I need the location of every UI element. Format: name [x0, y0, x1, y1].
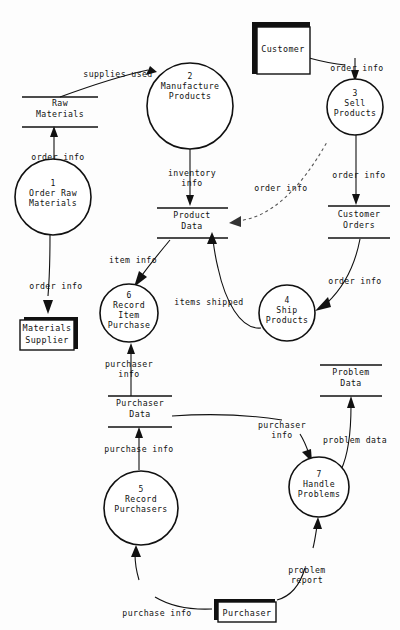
- process-label-line-1: Sell: [344, 98, 365, 108]
- flow-problem-report: [277, 517, 322, 600]
- process-2-manufacture-products[interactable]: 2 Manufacture Products: [147, 63, 233, 149]
- process-label-line-1: Record: [125, 494, 157, 504]
- data-store-purchaser-data[interactable]: Purchaser Data: [108, 396, 172, 427]
- process-label-line-2: Purchasers: [114, 504, 167, 514]
- process-1-order-raw-materials[interactable]: 1 Order Raw Materials: [15, 159, 91, 235]
- store-label-line-1: Customer: [338, 209, 381, 219]
- process-number: 6: [126, 291, 131, 300]
- data-store-customer-orders[interactable]: Customer Orders: [328, 206, 390, 238]
- flow-problem-data: [341, 396, 355, 470]
- process-number: 2: [187, 72, 192, 81]
- store-label-line-2: Data: [340, 378, 361, 388]
- flow-label-order-info-product-sell: order info: [254, 183, 307, 193]
- dfd-canvas: Raw Materials Product Data Customer Orde…: [0, 0, 400, 630]
- flow-purchase-info-purchaser-to-record: [131, 545, 212, 609]
- process-label-line-2: Products: [169, 91, 212, 101]
- store-label-line-1: Purchaser: [116, 398, 164, 408]
- external-entity-label-line-2: Supplier: [25, 335, 69, 345]
- store-label-line-1: Product: [173, 210, 210, 220]
- flow-label-purchaser-info-6-line-2: info: [118, 369, 139, 379]
- process-label-line-1: Order Raw: [29, 188, 77, 198]
- flow-label-order-info-raw: order info: [31, 152, 84, 162]
- flow-label-problem-report-line-1: problem: [288, 565, 325, 575]
- store-label-line-2: Data: [129, 409, 150, 419]
- external-entity-customer[interactable]: Customer: [252, 22, 310, 74]
- flow-label-problem-report-line-2: report: [291, 575, 323, 585]
- flow-label-purchaser-info-7-line-1: purchaser: [258, 420, 306, 430]
- flow-label-items-shipped: items shipped: [174, 297, 243, 307]
- external-entity-materials-supplier[interactable]: Materials Supplier: [20, 317, 78, 350]
- flow-label-order-info-sell-orders: order info: [332, 170, 385, 180]
- flow-label-purchase-info-purchaser: purchase info: [122, 608, 191, 618]
- flow-label-problem-data: problem data: [323, 435, 387, 445]
- process-5-record-purchasers[interactable]: 5 Record Purchasers: [104, 471, 178, 545]
- data-store-product-data[interactable]: Product Data: [157, 208, 228, 238]
- data-store-problem-data[interactable]: Problem Data: [320, 365, 382, 396]
- store-label-line-2: Data: [181, 221, 202, 231]
- store-label-line-1: Raw: [52, 98, 68, 108]
- flow-label-order-info-orders-ship: order info: [328, 276, 381, 286]
- process-label-line-2: Item: [118, 310, 139, 320]
- flow-order-info-orders-to-ship: [315, 239, 360, 311]
- process-label-line-1: Handle: [303, 479, 335, 489]
- flow-label-purchase-info-store: purchase info: [104, 444, 173, 454]
- flow-label-inventory-info-line-2: info: [181, 178, 202, 188]
- process-4-ship-products[interactable]: 4 Ship Products: [259, 285, 315, 341]
- flow-items-shipped: [207, 232, 261, 328]
- flow-label-purchaser-info-6-line-1: purchaser: [105, 359, 153, 369]
- process-label-line-2: Products: [334, 108, 377, 118]
- external-entity-label-line-1: Materials: [23, 323, 72, 333]
- process-label-line-1: Record: [113, 300, 145, 310]
- store-label-line-2: Materials: [36, 109, 84, 119]
- process-3-sell-products[interactable]: 3 Sell Products: [327, 79, 383, 135]
- dfd-svg: Raw Materials Product Data Customer Orde…: [0, 0, 400, 630]
- process-label-line-1: Ship: [276, 305, 297, 315]
- flow-label-supplies-used: supplies used: [83, 69, 152, 79]
- process-label-line-3: Purchase: [108, 320, 151, 330]
- process-number: 4: [284, 296, 289, 305]
- process-number: 1: [50, 179, 55, 188]
- process-7-handle-problems[interactable]: 7 Handle Problems: [289, 457, 349, 517]
- process-label-line-2: Materials: [29, 198, 77, 208]
- process-label-line-2: Problems: [298, 489, 341, 499]
- process-label-line-1: Manufacture: [161, 81, 220, 91]
- external-entity-purchaser[interactable]: Purchaser: [214, 599, 276, 622]
- process-number: 5: [138, 485, 143, 494]
- external-entity-label: Customer: [261, 44, 305, 54]
- flow-order-info-order-to-supplier: [43, 235, 53, 314]
- process-number: 3: [352, 89, 357, 98]
- external-entity-label: Purchaser: [223, 608, 272, 618]
- process-6-record-item-purchase[interactable]: 6 Record Item Purchase: [100, 284, 158, 342]
- flow-label-item-info: item info: [109, 255, 157, 265]
- flow-label-purchaser-info-7-line-2: info: [271, 430, 292, 440]
- store-label-line-2: Orders: [343, 220, 375, 230]
- process-number: 7: [316, 470, 321, 479]
- flow-label-order-info-customer: order info: [330, 63, 383, 73]
- flow-label-inventory-info-line-1: inventory: [168, 168, 216, 178]
- data-store-raw-materials[interactable]: Raw Materials: [22, 97, 98, 127]
- store-label-line-1: Problem: [332, 367, 369, 377]
- process-label-line-2: Products: [266, 315, 309, 325]
- flow-label-order-info-supplier: order info: [29, 281, 82, 291]
